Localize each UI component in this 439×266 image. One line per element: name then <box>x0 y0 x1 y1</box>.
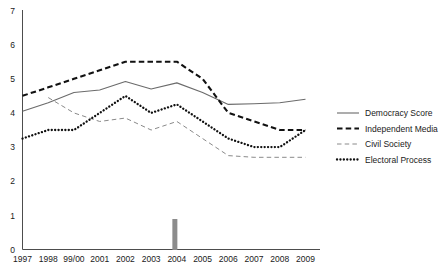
chart-legend: Democracy ScoreIndependent MediaCivil So… <box>337 108 438 165</box>
chart-annotations <box>172 219 177 250</box>
x-tick-label: 99/00 <box>63 254 85 264</box>
y-tick-label: 6 <box>10 40 15 50</box>
y-tick-label: 1 <box>10 211 15 221</box>
y-tick-label: 5 <box>10 74 15 84</box>
x-tick-label: 2009 <box>296 254 315 264</box>
legend-label-independent-media: Independent Media <box>365 124 438 134</box>
x-tick-label: 2001 <box>90 254 109 264</box>
y-tick-label: 2 <box>10 176 15 186</box>
legend-label-democracy-score: Democracy Score <box>365 108 433 118</box>
y-axis-ticks: 76543210 <box>10 6 15 255</box>
legend-label-civil-society: Civil Society <box>365 139 412 149</box>
x-axis-ticks: 1997199899/00200120022003200420052006200… <box>13 254 315 264</box>
x-tick-label: 2008 <box>270 254 289 264</box>
y-tick-label: 3 <box>10 142 15 152</box>
x-tick-label: 2005 <box>193 254 212 264</box>
x-tick-label: 1998 <box>39 254 58 264</box>
x-tick-label: 2007 <box>245 254 264 264</box>
x-tick-label: 2003 <box>142 254 161 264</box>
y-tick-label: 4 <box>10 108 15 118</box>
x-tick-label: 2004 <box>167 254 186 264</box>
chart-canvas: 76543210 1997199899/00200120022003200420… <box>0 0 439 266</box>
line-chart: 76543210 1997199899/00200120022003200420… <box>0 0 439 266</box>
y-tick-label: 7 <box>10 6 15 16</box>
series-line-civil-society <box>48 98 305 158</box>
x-tick-label: 1997 <box>13 254 32 264</box>
data-series-layer <box>23 62 306 158</box>
event-marker <box>172 219 177 250</box>
series-line-democracy-score <box>23 82 306 112</box>
legend-label-electoral-process: Electoral Process <box>365 155 431 165</box>
x-tick-label: 2006 <box>219 254 238 264</box>
x-tick-label: 2002 <box>116 254 135 264</box>
